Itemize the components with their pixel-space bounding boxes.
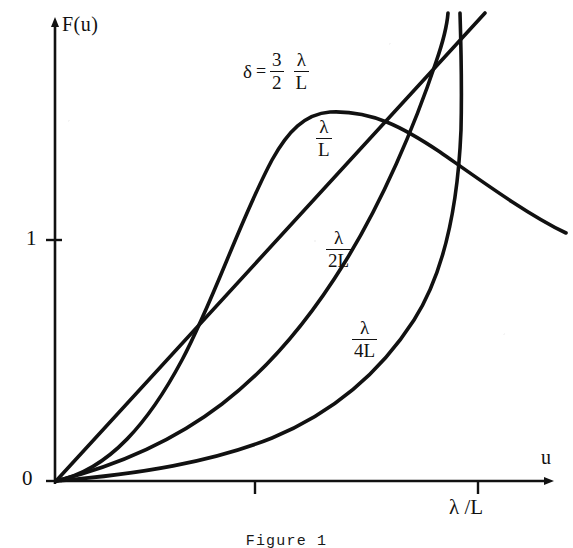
curve-label-lambda-over-4L: λ 4L <box>352 318 377 361</box>
origin-label-0: 0 <box>22 468 33 489</box>
coefficient-numerator: 3 <box>270 50 284 71</box>
ratio-denominator: L <box>294 71 310 93</box>
coefficient-fraction: 3 2 <box>270 50 284 93</box>
x-tick-label-lambda-over-L: λ /L <box>449 497 483 518</box>
curve-label-3-denominator: 4L <box>352 339 377 361</box>
y-axis-label: F(u) <box>62 14 98 34</box>
curve-label-2-numerator: λ <box>326 228 351 249</box>
figure-caption: Figure 1 <box>0 533 573 548</box>
x-axis-label: u <box>541 447 552 467</box>
ratio-fraction: λ L <box>294 50 310 93</box>
curve-label-2-denominator: 2L <box>326 249 351 271</box>
delta-annotation: δ = 3 2 λ L <box>243 50 309 93</box>
curve-label-1-numerator: λ <box>316 117 332 138</box>
curve-label-fraction-2: λ 2L <box>326 228 351 271</box>
figure-1: F(u) 1 0 u λ /L δ = 3 2 λ L λ L λ 2L <box>0 0 573 548</box>
curve-label-fraction-1: λ L <box>316 117 332 160</box>
curve-label-fraction-3: λ 4L <box>352 318 377 361</box>
y-tick-label-1: 1 <box>26 228 37 249</box>
coefficient-denominator: 2 <box>270 71 284 93</box>
curve-label-lambda-over-L: λ L <box>316 117 332 160</box>
delta-symbol: δ <box>243 62 252 81</box>
equals-sign: = <box>256 62 266 80</box>
curve-lambda-over-L <box>56 112 566 481</box>
ratio-numerator: λ <box>294 50 310 71</box>
x-axis <box>55 481 545 494</box>
curve-label-3-numerator: λ <box>352 318 377 339</box>
y-axis <box>46 26 62 484</box>
curve-label-lambda-over-2L: λ 2L <box>326 228 351 271</box>
curve-label-1-denominator: L <box>316 138 332 160</box>
